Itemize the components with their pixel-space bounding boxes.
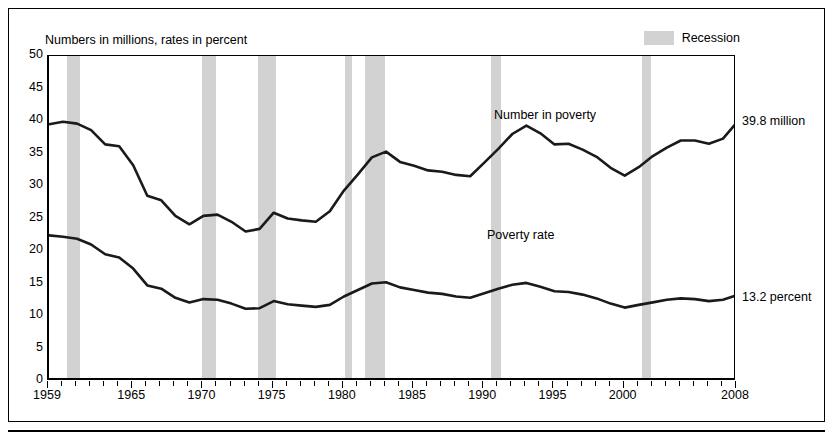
- legend: Recession: [644, 31, 740, 45]
- x-tick-label: 2008: [715, 388, 755, 402]
- x-tick-label: 1970: [181, 388, 221, 402]
- legend-label-recession: Recession: [682, 31, 740, 45]
- y-tick-label: 20: [19, 243, 43, 255]
- y-tick-label: 15: [19, 276, 43, 288]
- annotation-rate-end-value: 13.2 percent: [742, 290, 812, 304]
- x-tick-label: 1985: [392, 388, 432, 402]
- x-tick-label: 1975: [252, 388, 292, 402]
- chart-subtitle: Numbers in millions, rates in percent: [45, 33, 247, 47]
- y-tick-label: 35: [19, 146, 43, 158]
- plot-area: Number in poverty Poverty rate: [47, 55, 735, 380]
- series-lines: [49, 56, 735, 380]
- figure-bottom-rule: [8, 430, 825, 432]
- series-label-poverty-rate: Poverty rate: [487, 228, 554, 242]
- y-tick-label: 45: [19, 81, 43, 93]
- y-axis-labels: 05101520253035404550: [12, 0, 43, 440]
- y-tick-label: 50: [19, 48, 43, 60]
- x-tick-label: 1980: [322, 388, 362, 402]
- x-axis-labels: 1959196519701975198019851990199520002008: [0, 384, 835, 404]
- series-label-number-in-poverty: Number in poverty: [494, 108, 596, 122]
- y-tick-label: 5: [19, 341, 43, 353]
- y-tick-label: 10: [19, 308, 43, 320]
- x-tick-label: 1965: [111, 388, 151, 402]
- recession-swatch-icon: [644, 31, 674, 45]
- x-tick-label: 1959: [27, 388, 67, 402]
- y-tick-label: 40: [19, 113, 43, 125]
- y-tick-label: 25: [19, 211, 43, 223]
- x-tick-label: 1995: [532, 388, 572, 402]
- x-tick-label: 2000: [603, 388, 643, 402]
- annotation-number-end-value: 39.8 million: [742, 114, 805, 128]
- y-tick-label: 30: [19, 178, 43, 190]
- x-tick-label: 1990: [462, 388, 502, 402]
- line-poverty-rate: [49, 235, 735, 308]
- poverty-chart-figure: Numbers in millions, rates in percent Re…: [0, 0, 835, 440]
- line-number-in-poverty: [49, 122, 735, 232]
